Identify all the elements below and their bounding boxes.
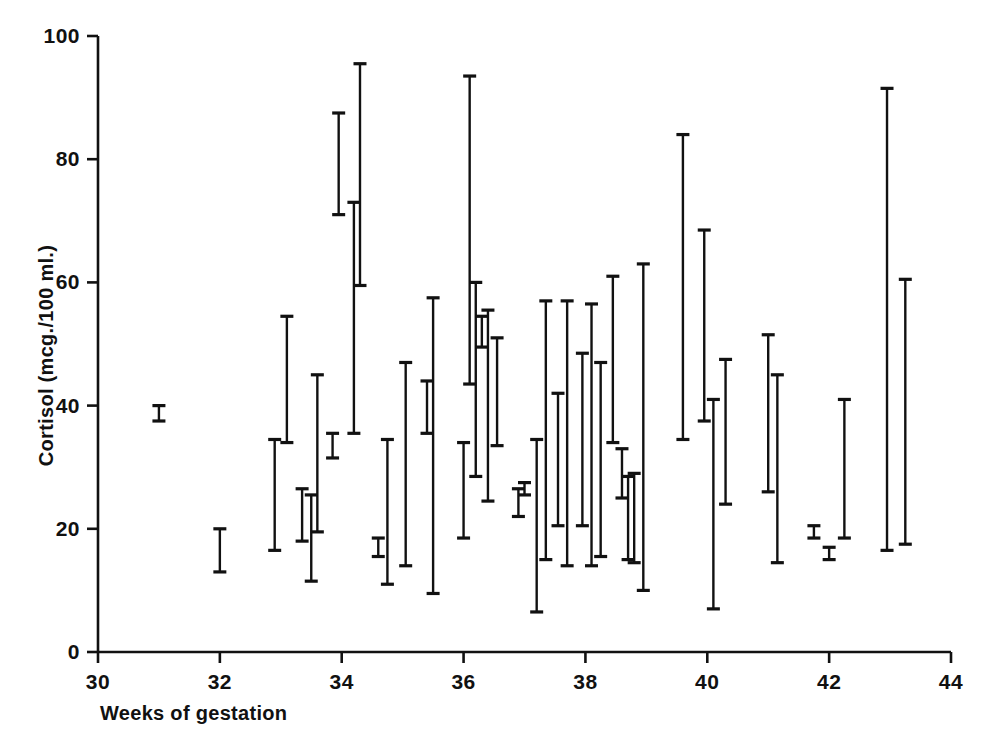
y-tick-label: 80 — [14, 147, 80, 171]
chart-figure: 020406080100 3032343638404244 Cortisol (… — [0, 0, 989, 752]
range-bar — [881, 88, 894, 550]
axis-ticks — [87, 36, 951, 663]
range-bar — [698, 230, 711, 421]
range-bar — [463, 76, 476, 384]
range-bar — [771, 375, 784, 563]
x-tick-label: 36 — [451, 670, 475, 694]
range-bar — [899, 279, 912, 544]
range-bar — [676, 135, 689, 440]
range-bar — [530, 439, 543, 611]
range-bar — [552, 393, 565, 525]
range-bar — [152, 406, 165, 421]
y-axis-title: Cortisol (mcg./100 ml.) — [35, 206, 58, 506]
y-tick-label: 0 — [14, 640, 80, 664]
range-bar — [372, 538, 385, 556]
range-bar — [807, 526, 820, 538]
range-bar — [280, 316, 293, 442]
x-tick-label: 34 — [330, 670, 354, 694]
x-tick-label: 30 — [86, 670, 110, 694]
x-axis-title: Weeks of gestation — [100, 702, 287, 725]
range-bar — [512, 489, 525, 517]
x-tick-label: 42 — [817, 670, 841, 694]
range-bar — [213, 529, 226, 572]
range-bar — [823, 547, 836, 559]
chart-plot-area — [0, 0, 989, 752]
range-bar — [399, 362, 412, 565]
range-bar — [475, 316, 488, 347]
x-tick-label: 44 — [939, 670, 963, 694]
range-bar — [268, 439, 281, 550]
range-bar — [707, 399, 720, 608]
range-bar — [637, 264, 650, 590]
range-bar — [311, 375, 324, 532]
range-bar — [469, 282, 482, 476]
x-tick-label: 32 — [208, 670, 232, 694]
range-bar — [305, 495, 318, 581]
range-bar — [838, 399, 851, 538]
range-bar — [296, 489, 309, 541]
range-bar — [326, 433, 339, 458]
range-bar — [594, 362, 607, 556]
range-bar — [622, 476, 635, 559]
x-tick-label: 40 — [695, 670, 719, 694]
range-bar — [539, 301, 552, 560]
range-bar — [427, 298, 440, 594]
y-tick-label: 20 — [14, 517, 80, 541]
range-bar — [381, 439, 394, 584]
range-bar — [347, 202, 360, 433]
range-bar-series — [152, 64, 911, 612]
range-bar — [606, 276, 619, 442]
range-bar — [421, 381, 434, 433]
range-bar — [353, 64, 366, 286]
range-bar — [615, 449, 628, 498]
range-bar — [762, 335, 775, 492]
range-bar — [628, 473, 641, 562]
range-bar — [491, 338, 504, 446]
range-bar — [576, 353, 589, 525]
range-bar — [719, 359, 732, 504]
y-tick-label: 100 — [14, 24, 80, 48]
x-tick-label: 38 — [573, 670, 597, 694]
range-bar — [332, 113, 345, 215]
range-bar — [457, 443, 470, 538]
